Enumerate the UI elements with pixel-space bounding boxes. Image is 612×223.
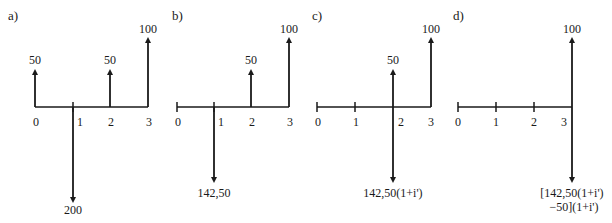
cash-flow-diagrams: a) 50 50 100 200 0 1 2 3 b) 50 100 142,5… [0, 0, 612, 223]
diagram-a: a) 50 50 100 200 0 1 2 3 [8, 8, 157, 217]
period-label: 0 [175, 115, 181, 129]
period-label: 1 [77, 115, 83, 129]
flow-label: 100 [139, 22, 157, 36]
period-label: 1 [353, 115, 359, 129]
period-label: 3 [287, 115, 293, 129]
flow-label: 142,50 [198, 186, 231, 200]
panel-label-c: c) [312, 8, 322, 23]
flow-label: 50 [29, 53, 41, 67]
flow-label-line2: −50](1+i') [549, 200, 598, 214]
period-label: 2 [249, 115, 255, 129]
period-label: 0 [33, 115, 39, 129]
panel-label-b: b) [172, 8, 183, 23]
flow-label: 50 [104, 53, 116, 67]
flow-label-line1: [142,50(1+i') [540, 186, 603, 200]
period-label: 3 [428, 115, 434, 129]
panel-label-a: a) [8, 8, 18, 23]
period-label: 2 [531, 115, 537, 129]
flow-label: 200 [64, 203, 82, 217]
period-label: 0 [455, 115, 461, 129]
flow-label: 100 [563, 22, 581, 36]
period-label: 0 [315, 115, 321, 129]
flow-label: 100 [422, 22, 440, 36]
diagram-d: d) 100 [142,50(1+i') −50](1+i') 0 1 2 3 [453, 8, 604, 214]
period-label: 3 [561, 115, 567, 129]
flow-label: 100 [280, 22, 298, 36]
period-label: 1 [493, 115, 499, 129]
diagram-b: b) 50 100 142,50 0 1 2 3 [172, 8, 298, 200]
period-label: 2 [108, 115, 114, 129]
period-label: 3 [146, 115, 152, 129]
flow-label: 50 [387, 53, 399, 67]
diagram-c: c) 50 100 142,50(1+i') 0 1 2 3 [312, 8, 440, 200]
period-label: 2 [398, 115, 404, 129]
flow-label: 50 [245, 53, 257, 67]
panel-label-d: d) [453, 8, 464, 23]
period-label: 1 [218, 115, 224, 129]
flow-label: 142,50(1+i') [363, 186, 422, 200]
